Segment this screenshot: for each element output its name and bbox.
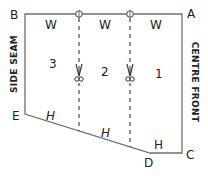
scissors-icon — [74, 63, 84, 83]
corner-label-a: A — [187, 7, 196, 21]
corner-label-e: E — [12, 109, 20, 123]
pivot-point-icon — [76, 11, 83, 18]
pattern-diagram: B A E D C W W W 3 2 1 H H H SIDE SEAM CE… — [0, 0, 208, 180]
hem-label: H — [101, 126, 110, 140]
waist-label: W — [99, 18, 111, 32]
side-seam-label: SIDE SEAM — [9, 35, 19, 93]
section-number-1: 1 — [155, 67, 163, 81]
corner-label-b: B — [10, 8, 18, 22]
section-number-2: 2 — [101, 65, 109, 79]
hem-label: H — [154, 138, 163, 152]
corner-label-d: D — [144, 156, 153, 170]
corner-label-c: C — [186, 148, 194, 162]
waist-label: W — [150, 18, 162, 32]
waist-label: W — [45, 18, 57, 32]
section-number-3: 3 — [49, 57, 57, 71]
hem-label: H — [46, 109, 55, 123]
pivot-point-icon — [127, 11, 134, 18]
centre-front-label: CENTRE FRONT — [190, 42, 200, 123]
scissors-icon — [125, 63, 135, 83]
